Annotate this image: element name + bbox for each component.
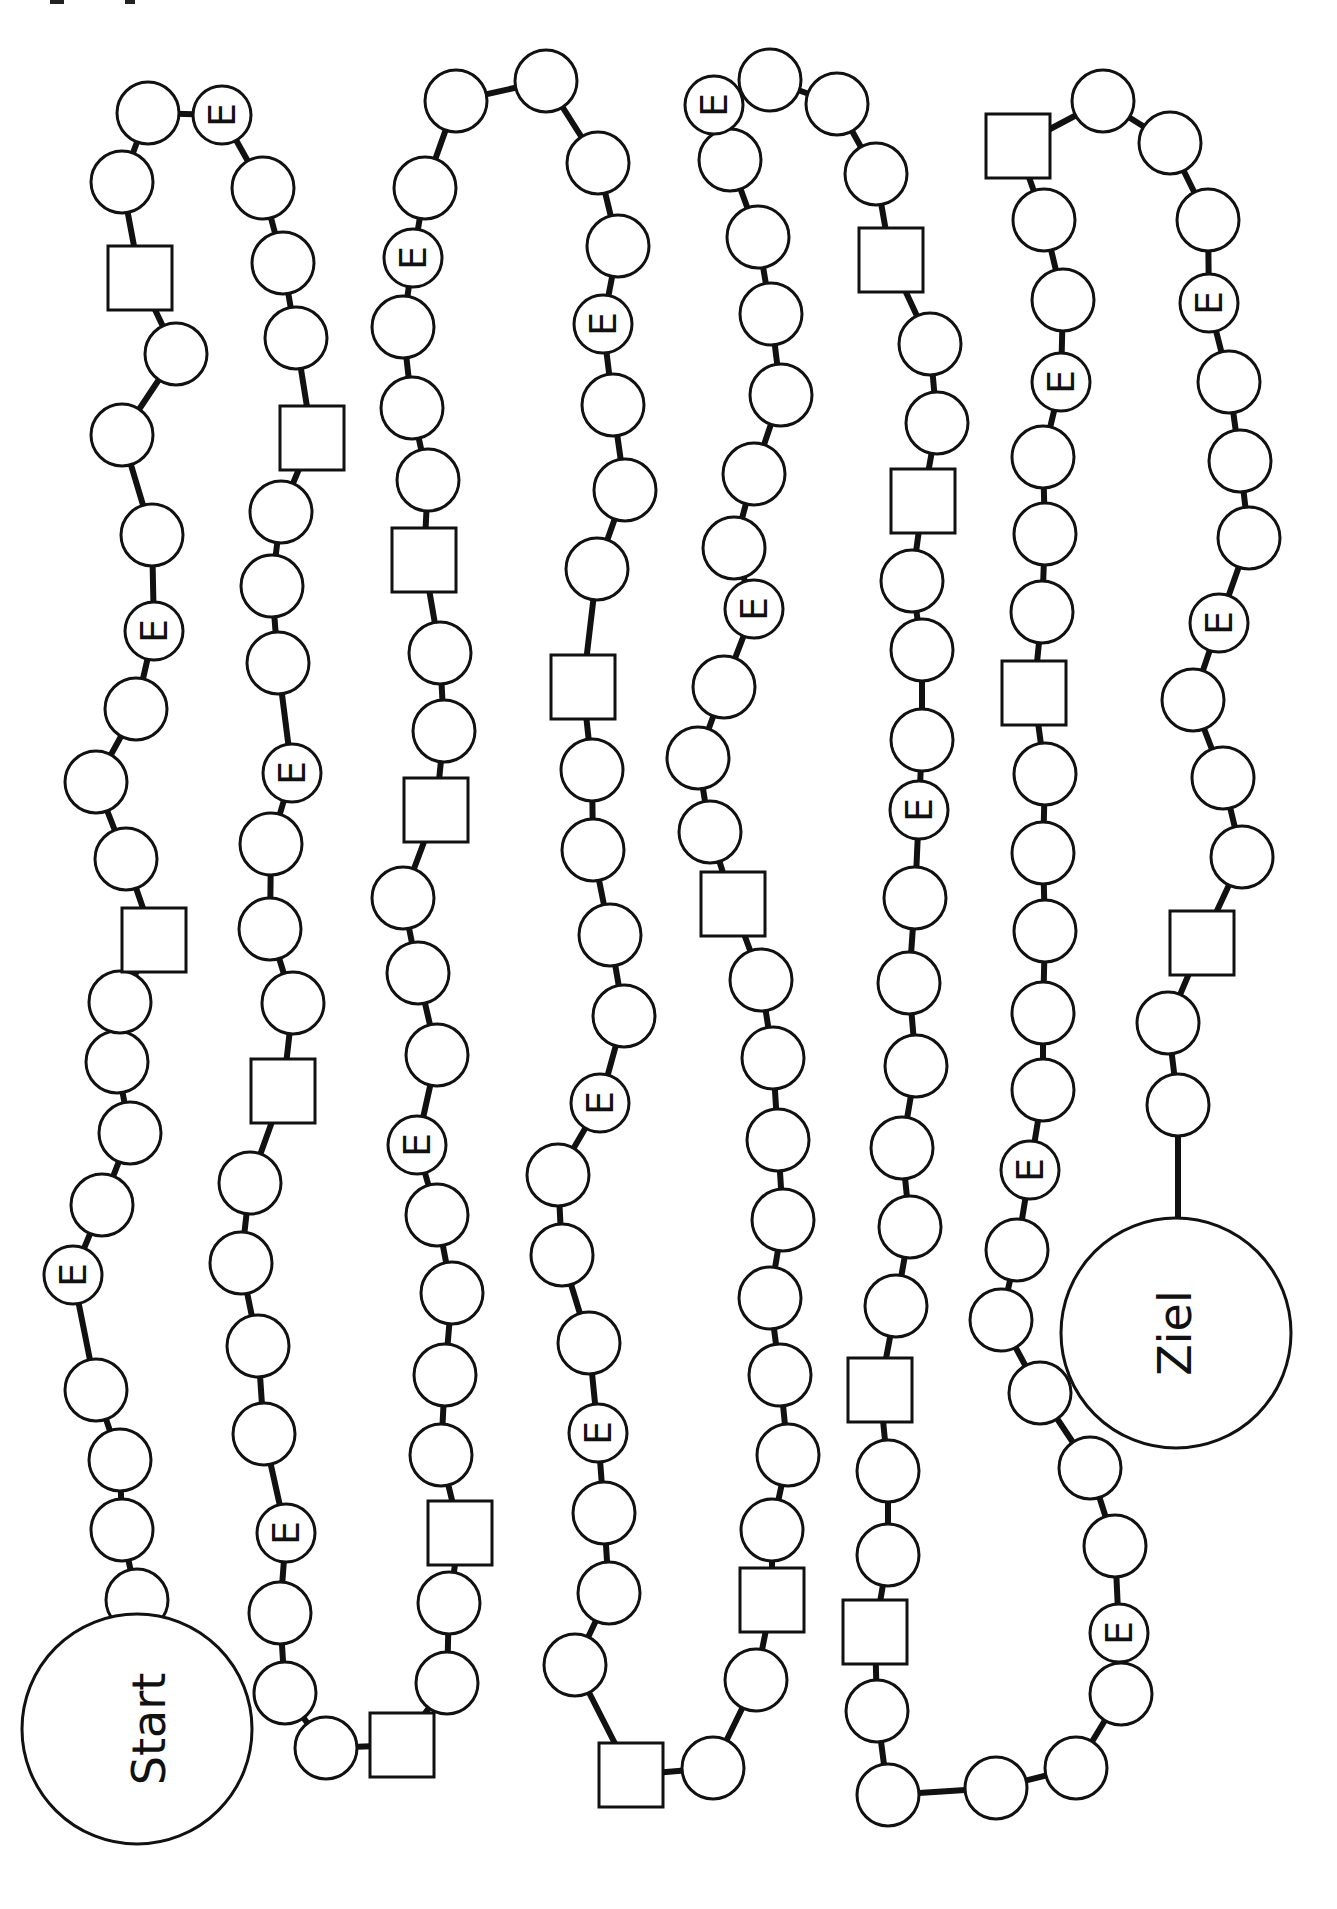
circle-field[interactable]: [562, 819, 624, 881]
circle-field[interactable]: [573, 1482, 635, 1544]
circle-field[interactable]: [739, 1267, 801, 1329]
event-field[interactable]: E: [1032, 353, 1090, 411]
circle-field[interactable]: [871, 1117, 933, 1179]
circle-field[interactable]: [91, 404, 153, 466]
square-field[interactable]: [986, 114, 1050, 178]
circle-field[interactable]: [965, 1757, 1027, 1819]
circle-field[interactable]: [1013, 189, 1075, 251]
circle-field[interactable]: [593, 985, 655, 1047]
square-field[interactable]: [370, 1713, 434, 1777]
circle-field[interactable]: [1162, 669, 1224, 731]
circle-field[interactable]: [1012, 426, 1074, 488]
circle-field[interactable]: [1032, 269, 1094, 331]
circle-field[interactable]: [682, 1737, 744, 1799]
circle-field[interactable]: [970, 1289, 1032, 1351]
circle-field[interactable]: [252, 232, 314, 294]
circle-field[interactable]: [747, 1109, 809, 1171]
event-field[interactable]: E: [193, 86, 251, 144]
circle-field[interactable]: [1209, 430, 1271, 492]
circle-field[interactable]: [1011, 581, 1073, 643]
square-field[interactable]: [251, 1059, 315, 1123]
circle-field[interactable]: [71, 1174, 133, 1236]
circle-field[interactable]: [558, 1312, 620, 1374]
circle-field[interactable]: [567, 132, 629, 194]
circle-field[interactable]: [693, 656, 755, 718]
circle-field[interactable]: [515, 50, 577, 112]
circle-field[interactable]: [579, 904, 641, 966]
circle-field[interactable]: [262, 972, 324, 1034]
square-field[interactable]: [740, 1568, 804, 1632]
circle-field[interactable]: [249, 1582, 311, 1644]
circle-field[interactable]: [881, 550, 943, 612]
circle-field[interactable]: [414, 1344, 476, 1406]
circle-field[interactable]: [582, 374, 644, 436]
circle-field[interactable]: [65, 751, 127, 813]
circle-field[interactable]: [240, 813, 302, 875]
circle-field[interactable]: [410, 1424, 472, 1486]
circle-field[interactable]: [86, 1031, 148, 1093]
circle-field[interactable]: [749, 1344, 811, 1406]
circle-field[interactable]: [1147, 1074, 1209, 1136]
event-field[interactable]: E: [574, 295, 632, 353]
circle-field[interactable]: [527, 1144, 589, 1206]
event-field[interactable]: E: [125, 602, 183, 660]
circle-field[interactable]: [739, 49, 801, 111]
circle-field[interactable]: [95, 828, 157, 890]
circle-field[interactable]: [241, 555, 303, 617]
square-field[interactable]: [428, 1501, 492, 1565]
circle-field[interactable]: [397, 449, 459, 511]
circle-field[interactable]: [878, 952, 940, 1014]
circle-field[interactable]: [1012, 982, 1074, 1044]
square-field[interactable]: [843, 1600, 907, 1664]
circle-field[interactable]: [587, 215, 649, 277]
circle-field[interactable]: [679, 801, 741, 863]
event-field[interactable]: E: [1180, 274, 1238, 332]
circle-field[interactable]: [1090, 1663, 1152, 1725]
event-field[interactable]: E: [725, 580, 783, 638]
circle-field[interactable]: [1045, 1737, 1107, 1799]
circle-field[interactable]: [742, 1027, 804, 1089]
circle-field[interactable]: [89, 971, 151, 1033]
circle-field[interactable]: [387, 942, 449, 1004]
circle-field[interactable]: [857, 1524, 919, 1586]
event-field[interactable]: E: [1090, 1604, 1148, 1662]
square-field[interactable]: [848, 1358, 912, 1422]
circle-field[interactable]: [544, 1634, 606, 1696]
circle-field[interactable]: [884, 867, 946, 929]
circle-field[interactable]: [91, 1499, 153, 1561]
event-field[interactable]: E: [1190, 594, 1248, 652]
circle-field[interactable]: [1012, 1059, 1074, 1121]
square-field[interactable]: [891, 469, 955, 533]
circle-field[interactable]: [1192, 747, 1254, 809]
circle-field[interactable]: [578, 1562, 640, 1624]
circle-field[interactable]: [219, 1152, 281, 1214]
circle-field[interactable]: [845, 143, 907, 205]
circle-field[interactable]: [891, 619, 953, 681]
circle-field[interactable]: [740, 283, 802, 345]
event-field[interactable]: E: [1001, 1141, 1059, 1199]
circle-field[interactable]: [1218, 507, 1280, 569]
circle-field[interactable]: [145, 323, 207, 385]
circle-field[interactable]: [239, 898, 301, 960]
circle-field[interactable]: [1084, 1515, 1146, 1577]
square-field[interactable]: [404, 778, 468, 842]
circle-field[interactable]: [879, 1196, 941, 1258]
circle-field[interactable]: [121, 504, 183, 566]
square-field[interactable]: [1002, 661, 1066, 725]
circle-field[interactable]: [1059, 1437, 1121, 1499]
circle-field[interactable]: [416, 1652, 478, 1714]
circle-field[interactable]: [667, 727, 729, 789]
circle-field[interactable]: [752, 1189, 814, 1251]
circle-field[interactable]: [885, 1035, 947, 1097]
square-field[interactable]: [599, 1743, 663, 1807]
circle-field[interactable]: [566, 538, 628, 600]
circle-field[interactable]: [806, 73, 868, 135]
event-field[interactable]: E: [257, 1504, 315, 1562]
circle-field[interactable]: [986, 1219, 1048, 1281]
circle-field[interactable]: [105, 678, 167, 740]
event-field[interactable]: E: [569, 1404, 627, 1462]
circle-field[interactable]: [857, 1440, 919, 1502]
circle-field[interactable]: [725, 1649, 787, 1711]
square-field[interactable]: [392, 528, 456, 592]
event-field[interactable]: E: [890, 781, 948, 839]
